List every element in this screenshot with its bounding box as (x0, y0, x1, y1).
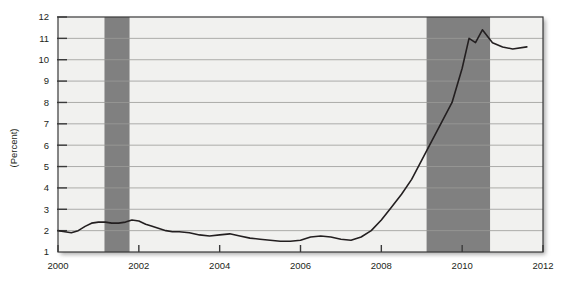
y-tick-label-12: 12 (38, 11, 49, 22)
y-tick-label-4: 4 (44, 182, 49, 193)
y-tick-label-8: 8 (44, 97, 49, 108)
x-tick-label-2002: 2002 (128, 260, 149, 271)
y-tick-label-6: 6 (44, 140, 49, 151)
y-tick-label-7: 7 (44, 118, 49, 129)
shaded-band-recession-2001 (104, 17, 129, 252)
x-tick-label-2006: 2006 (290, 260, 311, 271)
chart-svg-canvas: 123456789101112 200020022004200620082010… (0, 0, 562, 286)
y-tick-label-3: 3 (44, 204, 49, 215)
x-tick-label-2004: 2004 (209, 260, 230, 271)
y-tick-label-10: 10 (38, 54, 49, 65)
y-tick-label-11: 11 (39, 33, 49, 44)
x-tick-label-2008: 2008 (371, 260, 392, 271)
unemployment-rate-chart: 123456789101112 200020022004200620082010… (0, 0, 562, 286)
y-axis-title: (Percent) (8, 128, 19, 167)
y-tick-label-2: 2 (44, 225, 49, 236)
y-tick-label-1: 1 (44, 246, 49, 257)
x-tick-label-2010: 2010 (452, 260, 473, 271)
x-tick-label-2012: 2012 (532, 260, 553, 271)
y-tick-label-5: 5 (44, 161, 49, 172)
y-tick-label-9: 9 (44, 75, 49, 86)
x-axis-tick-labels: 2000200220042006200820102012 (47, 260, 553, 271)
y-axis-tick-labels: 123456789101112 (38, 11, 49, 257)
x-tick-label-2000: 2000 (47, 260, 68, 271)
